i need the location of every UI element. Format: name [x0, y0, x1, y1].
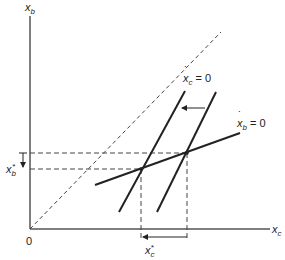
y-axis-label: xb [25, 2, 35, 13]
xc-dot-label-sub: c [189, 78, 193, 87]
x-axis-label-var: x [272, 223, 278, 235]
x-axis-label-sub: c [278, 229, 282, 238]
xb-dot-label-sub: b [243, 123, 247, 132]
x-axis-label: xc [272, 224, 282, 235]
xc-star-sup: * [151, 243, 154, 252]
xb-dot-zero-label: xb = 0 [237, 118, 266, 129]
equilibrium-point-new [139, 167, 143, 171]
equilibrium-point-original [185, 151, 189, 155]
y-axis-label-sub: b [31, 7, 35, 16]
xc-star-label: xc* [145, 245, 154, 256]
xb-dot-label-var: x [237, 117, 243, 129]
origin-label: 0 [26, 236, 32, 247]
xc-dot-label-var: x [183, 72, 189, 84]
y-axis-label-var: x [25, 1, 31, 13]
xb-star-sup: * [12, 162, 15, 171]
xb-dot-zero-line [95, 133, 240, 185]
xc-dot-zero-label: xc = 0 [183, 73, 211, 84]
xc-dot-zero-line-new [119, 91, 185, 212]
xc-star-var: x [145, 244, 151, 256]
xb-star-label: xb* [6, 164, 15, 175]
xb-dot-label-eq: = 0 [250, 117, 266, 129]
xc-dot-label-eq: = 0 [196, 72, 212, 84]
xb-star-var: x [6, 163, 12, 175]
